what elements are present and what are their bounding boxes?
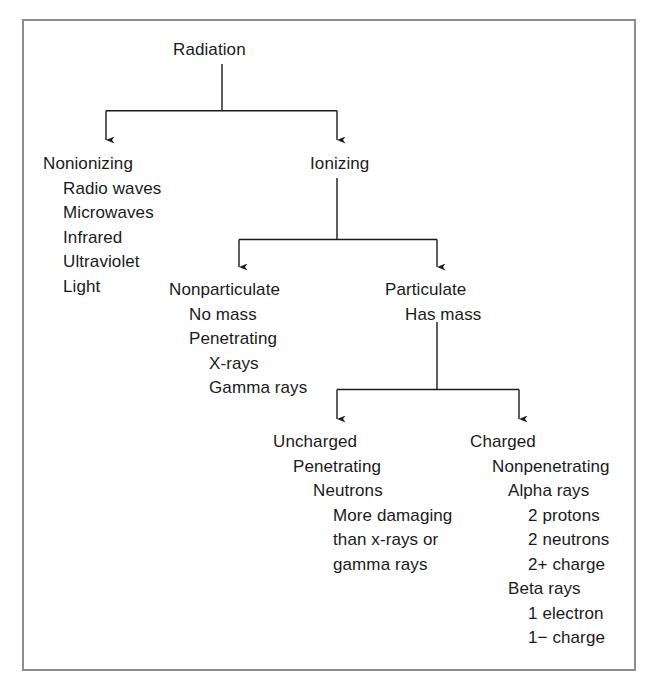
node-particulate-line-0: Particulate [385, 278, 481, 303]
node-nonparticulate-line-4: Gamma rays [169, 376, 307, 401]
node-uncharged-line-3: More damaging [273, 504, 452, 529]
node-nonparticulate: Nonparticulate No mass Penetrating X-ray… [169, 278, 307, 401]
node-ionizing: Ionizing [310, 152, 369, 177]
diagram-page: Radiation Nonionizing Radio waves Microw… [0, 0, 656, 689]
node-nonionizing-line-3: Infrared [43, 226, 161, 251]
node-charged-line-5: 2+ charge [470, 553, 610, 578]
node-nonparticulate-line-0: Nonparticulate [169, 278, 307, 303]
node-charged-line-1: Nonpenetrating [470, 455, 610, 480]
node-charged-line-7: 1 electron [470, 602, 610, 627]
node-uncharged-line-2: Neutrons [273, 479, 452, 504]
node-nonionizing-line-1: Radio waves [43, 177, 161, 202]
node-charged-line-8: 1− charge [470, 626, 610, 651]
node-particulate: Particulate Has mass [385, 278, 481, 327]
node-nonionizing-line-0: Nonionizing [43, 152, 161, 177]
node-nonionizing-line-4: Ultraviolet [43, 250, 161, 275]
node-charged-line-4: 2 neutrons [470, 528, 610, 553]
node-uncharged-line-4: than x-rays or [273, 528, 452, 553]
node-nonionizing-line-2: Microwaves [43, 201, 161, 226]
node-nonparticulate-line-2: Penetrating [169, 327, 307, 352]
node-charged-line-0: Charged [470, 430, 610, 455]
node-uncharged-line-1: Penetrating [273, 455, 452, 480]
node-charged-line-3: 2 protons [470, 504, 610, 529]
node-uncharged-line-0: Uncharged [273, 430, 452, 455]
node-uncharged-line-5: gamma rays [273, 553, 452, 578]
node-nonionizing: Nonionizing Radio waves Microwaves Infra… [43, 152, 161, 299]
node-radiation-line-0: Radiation [173, 38, 246, 63]
node-particulate-line-1: Has mass [385, 303, 481, 328]
node-radiation: Radiation [173, 38, 246, 63]
node-nonionizing-line-5: Light [43, 275, 161, 300]
node-nonparticulate-line-1: No mass [169, 303, 307, 328]
node-nonparticulate-line-3: X-rays [169, 352, 307, 377]
node-charged-line-6: Beta rays [470, 577, 610, 602]
node-charged-line-2: Alpha rays [470, 479, 610, 504]
node-charged: Charged Nonpenetrating Alpha rays 2 prot… [470, 430, 610, 651]
node-ionizing-line-0: Ionizing [310, 152, 369, 177]
node-uncharged: Uncharged Penetrating Neutrons More dama… [273, 430, 452, 577]
